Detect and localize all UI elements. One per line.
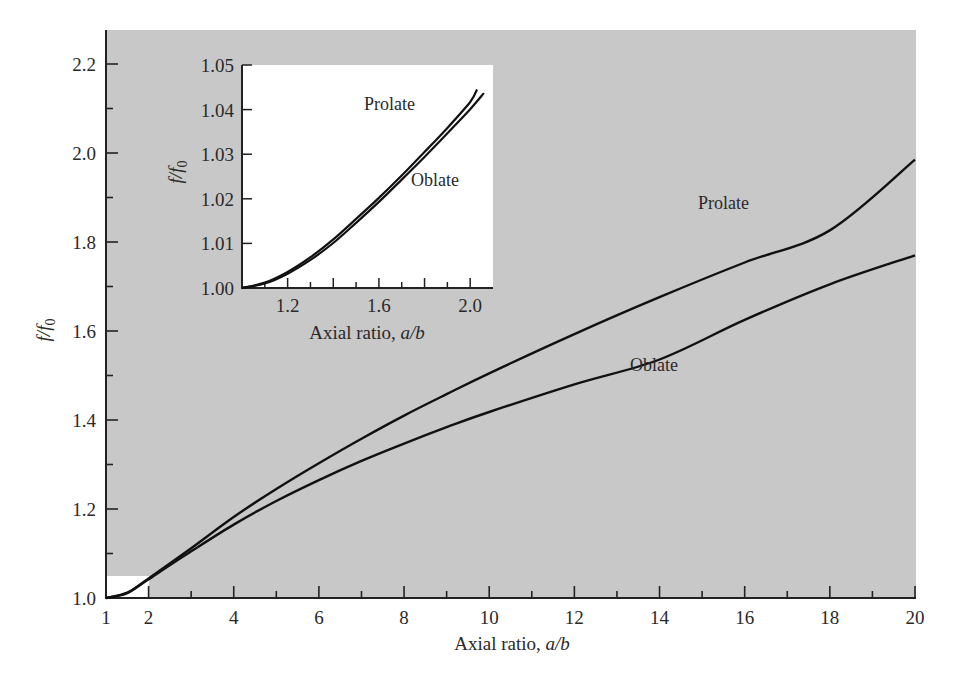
x-tick-label: 2 bbox=[144, 607, 154, 628]
main-y-axis-title: f/f0 bbox=[33, 319, 58, 342]
main-label-prolate: Prolate bbox=[698, 193, 749, 213]
x-tick-label: 10 bbox=[480, 607, 499, 628]
inset-y-tick-label: 1.04 bbox=[201, 100, 235, 121]
x-tick-label: 4 bbox=[229, 607, 239, 628]
inset-x-tick-label: 2.0 bbox=[458, 295, 482, 316]
x-tick-label: 18 bbox=[820, 607, 839, 628]
y-tick-label: 1.6 bbox=[72, 321, 96, 342]
y-tick-label: 1.4 bbox=[72, 410, 96, 431]
x-tick-label: 8 bbox=[399, 607, 409, 628]
x-tick-label: 6 bbox=[314, 607, 324, 628]
inset-x-tick-label: 1.6 bbox=[367, 295, 391, 316]
inset-y-tick-label: 1.01 bbox=[201, 233, 234, 254]
inset-y-tick-label: 1.00 bbox=[201, 278, 234, 299]
x-tick-label: 1 bbox=[101, 607, 111, 628]
y-tick-label: 1.2 bbox=[72, 499, 96, 520]
y-tick-label: 1.0 bbox=[72, 588, 96, 609]
inset-region-highlight bbox=[106, 576, 149, 598]
svg-text:f/f0: f/f0 bbox=[33, 319, 58, 342]
inset-y-tick-label: 1.03 bbox=[201, 144, 234, 165]
inset-x-axis-title: Axial ratio, a/b bbox=[309, 322, 425, 343]
main-x-axis-title: Axial ratio, a/b bbox=[454, 633, 570, 654]
inset-y-tick-label: 1.02 bbox=[201, 189, 234, 210]
y-tick-label: 1.8 bbox=[72, 232, 96, 253]
inset-x-tick-label: 1.2 bbox=[276, 295, 300, 316]
inset-label-oblate: Oblate bbox=[411, 170, 459, 190]
x-tick-label: 12 bbox=[565, 607, 584, 628]
y-tick-label: 2.0 bbox=[72, 143, 96, 164]
inset-label-prolate: Prolate bbox=[364, 94, 415, 114]
x-tick-label: 14 bbox=[650, 607, 670, 628]
main-label-oblate: Oblate bbox=[630, 355, 678, 375]
y-tick-label: 2.2 bbox=[72, 54, 96, 75]
x-tick-label: 16 bbox=[735, 607, 754, 628]
chart-figure: 12468101214161820 1.01.21.41.61.82.02.2 … bbox=[0, 0, 956, 684]
x-tick-label: 20 bbox=[906, 607, 925, 628]
inset-y-tick-label: 1.05 bbox=[201, 55, 234, 76]
